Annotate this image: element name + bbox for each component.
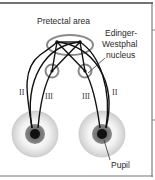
label-left-optic-nerve: II bbox=[19, 88, 24, 97]
label-right-optic-nerve: II bbox=[112, 88, 117, 97]
label-edinger-westphal-3: nucleus bbox=[106, 50, 135, 60]
label-pretectal-area: Pretectal area bbox=[37, 16, 90, 26]
label-pupil: Pupil bbox=[111, 160, 130, 170]
label-edinger-westphal-2: Westphal bbox=[102, 39, 137, 49]
label-left-oculomotor-nerve: III bbox=[45, 92, 53, 101]
left-pupil bbox=[30, 129, 40, 139]
label-edinger-westphal-1: Edinger- bbox=[105, 28, 137, 38]
label-right-oculomotor-nerve: III bbox=[82, 92, 90, 101]
right-pupil bbox=[97, 129, 107, 139]
